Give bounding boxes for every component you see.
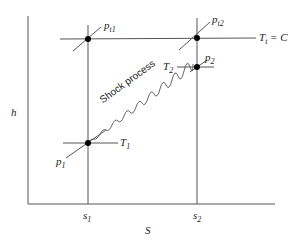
p2-label: p2 — [205, 52, 215, 66]
point-state1 — [85, 140, 91, 146]
s2-tick-label: s2 — [193, 210, 201, 224]
h-axis-label: h — [11, 107, 17, 118]
point-pt2 — [194, 35, 200, 41]
s-axis-label: S — [145, 225, 151, 236]
s1-tick-label: s1 — [83, 210, 91, 224]
pt2-isobar — [179, 22, 210, 50]
tt-equals-c-label: Tt = C — [259, 32, 288, 46]
pt1-label: pt1 — [104, 20, 116, 34]
p1-label: p1 — [56, 156, 66, 170]
point-pt1 — [85, 36, 91, 42]
t2-label: T2 — [163, 61, 173, 75]
point-state2 — [194, 64, 200, 70]
t1-label: T1 — [120, 137, 130, 151]
hs-diagram — [0, 0, 294, 241]
pt2-label: pt2 — [212, 14, 224, 28]
